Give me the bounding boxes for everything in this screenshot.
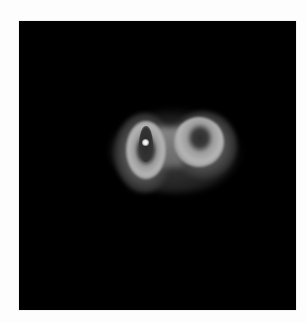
right-lobe-ring (174, 117, 224, 167)
image-caption (30, 4, 280, 16)
bright-spot (142, 139, 149, 146)
image-frame (19, 21, 296, 310)
